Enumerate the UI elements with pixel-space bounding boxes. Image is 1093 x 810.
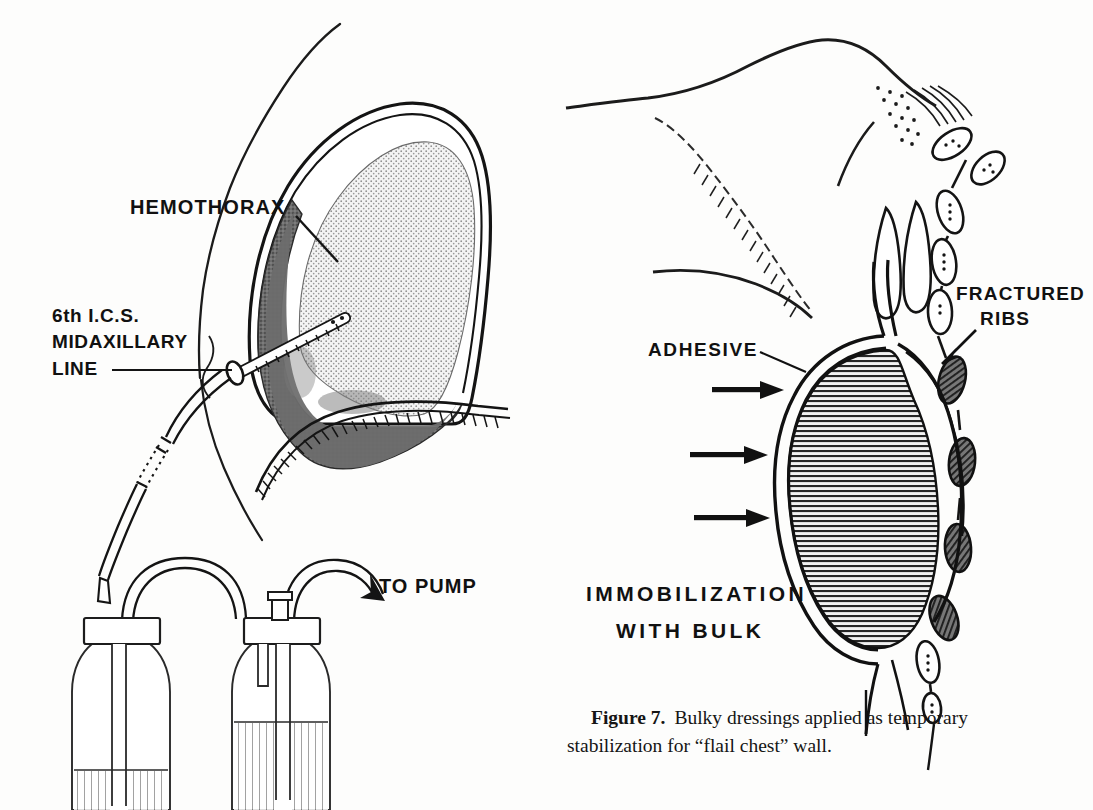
label-midaxillary: MIDAXILLARY	[52, 331, 188, 353]
compression-arrows	[690, 381, 784, 527]
rib-cross-sections	[927, 122, 1011, 191]
label-hemothorax: HEMOTHORAX	[130, 196, 285, 220]
adhesive-leader	[760, 352, 806, 372]
compression-arrow-2	[690, 446, 768, 464]
compression-arrow-1	[712, 381, 784, 399]
label-immobilization: IMMOBILIZATION	[586, 582, 807, 607]
scanned-textbook-page: HEMOTHORAX 6th I.C.S. MIDAXILLARY LINE T…	[0, 0, 1093, 810]
suction-tubing-to-pump	[283, 560, 385, 621]
compression-arrow-3	[694, 509, 770, 527]
figure-number: Figure 7.	[591, 707, 665, 728]
label-to-pump: TO PUMP	[379, 575, 477, 599]
figure-illustrations	[0, 0, 1093, 810]
drainage-bottle-right	[232, 592, 330, 810]
bulk-dressing-pad	[789, 350, 939, 648]
figure-caption: Figure 7.Bulky dressings applied as temp…	[567, 704, 1037, 759]
label-line: LINE	[52, 358, 98, 380]
drainage-bottle-left	[72, 618, 170, 810]
label-intercostal-space: 6th I.C.S.	[52, 305, 139, 327]
label-fractured: FRACTURED	[956, 283, 1085, 305]
label-with-bulk: WITH BULK	[616, 619, 764, 644]
label-adhesive: ADHESIVE	[648, 339, 758, 361]
costal-cartilages	[874, 202, 931, 318]
right-figure-group	[566, 40, 1011, 770]
interbottle-tubing	[122, 558, 246, 621]
lateral-rib-chain	[927, 187, 968, 334]
left-figure-group	[72, 24, 510, 810]
label-ribs: RIBS	[980, 308, 1030, 330]
